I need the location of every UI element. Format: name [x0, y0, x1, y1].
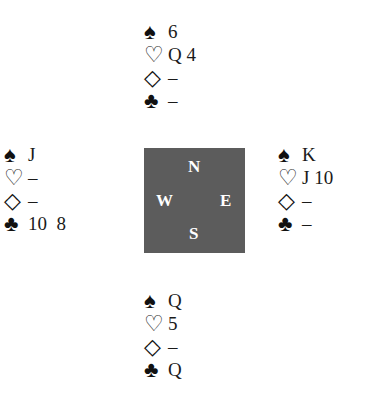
spade-icon: ♠	[4, 143, 26, 166]
north-spades: ♠6	[144, 20, 196, 43]
east-diamonds-cards: –	[302, 189, 312, 212]
heart-icon: ♡	[144, 43, 166, 66]
east-hand: ♠K ♡J 10 ◇– ♣–	[278, 143, 333, 235]
west-hearts-cards: –	[28, 166, 38, 189]
spade-icon: ♠	[144, 289, 166, 312]
west-clubs: ♣10 8	[4, 212, 66, 235]
spade-icon: ♠	[144, 20, 166, 43]
east-clubs-cards: –	[302, 212, 312, 235]
club-icon: ♣	[144, 89, 166, 112]
south-diamonds: ◇–	[144, 335, 182, 358]
diamond-icon: ◇	[278, 189, 300, 212]
club-icon: ♣	[144, 358, 166, 381]
west-hearts: ♡–	[4, 166, 66, 189]
north-diamonds-cards: –	[168, 66, 178, 89]
south-hearts: ♡5	[144, 312, 182, 335]
east-hearts-cards: J 10	[302, 166, 333, 189]
north-hearts-cards: Q 4	[168, 43, 196, 66]
east-hearts: ♡J 10	[278, 166, 333, 189]
south-diamonds-cards: –	[168, 335, 178, 358]
compass-table: N W E S	[144, 148, 245, 253]
club-icon: ♣	[278, 212, 300, 235]
heart-icon: ♡	[4, 166, 26, 189]
north-clubs: ♣–	[144, 89, 196, 112]
heart-icon: ♡	[144, 312, 166, 335]
west-hand: ♠J ♡– ◇– ♣10 8	[4, 143, 66, 235]
east-spades-cards: K	[302, 143, 316, 166]
east-diamonds: ◇–	[278, 189, 333, 212]
north-diamonds: ◇–	[144, 66, 196, 89]
north-spades-cards: 6	[168, 20, 178, 43]
west-spades-cards: J	[28, 143, 35, 166]
compass-east-label: E	[220, 191, 231, 211]
east-spades: ♠K	[278, 143, 333, 166]
east-clubs: ♣–	[278, 212, 333, 235]
north-hand: ♠6 ♡Q 4 ◇– ♣–	[144, 20, 196, 112]
spade-icon: ♠	[278, 143, 300, 166]
club-icon: ♣	[4, 212, 26, 235]
south-hand: ♠Q ♡5 ◇– ♣Q	[144, 289, 182, 381]
compass-south-label: S	[189, 224, 198, 244]
heart-icon: ♡	[278, 166, 300, 189]
compass-north-label: N	[188, 157, 200, 177]
north-clubs-cards: –	[168, 89, 178, 112]
north-hearts: ♡Q 4	[144, 43, 196, 66]
diamond-icon: ◇	[144, 66, 166, 89]
diamond-icon: ◇	[144, 335, 166, 358]
compass-west-label: W	[156, 191, 173, 211]
west-spades: ♠J	[4, 143, 66, 166]
west-clubs-cards: 10 8	[28, 212, 66, 235]
south-spades: ♠Q	[144, 289, 182, 312]
west-diamonds-cards: –	[28, 189, 38, 212]
diamond-icon: ◇	[4, 189, 26, 212]
south-clubs: ♣Q	[144, 358, 182, 381]
west-diamonds: ◇–	[4, 189, 66, 212]
south-hearts-cards: 5	[168, 312, 178, 335]
south-spades-cards: Q	[168, 289, 182, 312]
south-clubs-cards: Q	[168, 358, 182, 381]
